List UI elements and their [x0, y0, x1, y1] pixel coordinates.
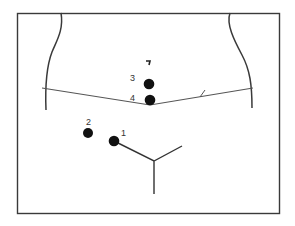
frame-border [18, 14, 280, 214]
left-flank-outline [46, 13, 62, 110]
port-dot [145, 95, 156, 106]
port-placement-diagram: 1 2 3 4 [0, 0, 295, 226]
incision-y-shape [114, 141, 182, 194]
port-label: 2 [86, 117, 91, 127]
port-dot [144, 79, 155, 90]
port-1: 1 [109, 128, 126, 146]
port-2: 2 [83, 117, 93, 138]
port-dot [109, 136, 120, 147]
right-flank-outline [229, 13, 252, 108]
port-label: 3 [130, 73, 135, 83]
port-label: 4 [130, 93, 135, 103]
port-3: 3 [130, 73, 154, 89]
umbilicus-icon [146, 61, 150, 65]
port-dot [83, 128, 93, 138]
port-label: 1 [121, 128, 126, 138]
